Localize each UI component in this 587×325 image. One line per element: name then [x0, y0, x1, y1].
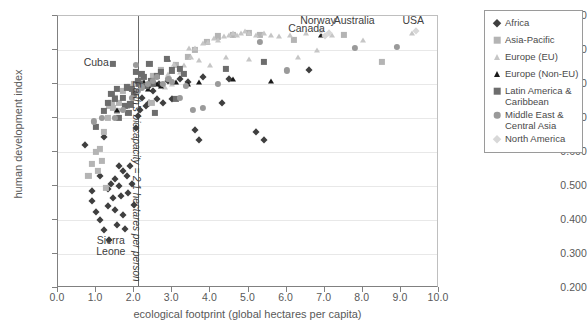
legend-label: Latin America & Caribbean — [505, 85, 583, 107]
legend-item-asia-pacific[interactable]: Asia-Pacific — [491, 34, 583, 45]
data-point — [92, 208, 99, 215]
data-point — [196, 58, 202, 63]
data-point — [295, 54, 301, 59]
y-axis-title: human development index — [12, 54, 24, 214]
data-point — [192, 126, 199, 133]
legend-item-latin-america-caribbean[interactable]: Latin America & Caribbean — [491, 85, 583, 107]
data-point — [89, 161, 95, 167]
x-tick-label: 2.0 — [113, 292, 153, 303]
x-tick-label: 1.0 — [75, 292, 115, 303]
data-point — [119, 211, 126, 218]
data-point — [154, 74, 160, 80]
y-tick-label: 0.400 — [539, 214, 587, 225]
gridline-horizontal — [58, 220, 437, 221]
legend-marker-diamond-icon — [491, 17, 505, 28]
x-tick-label: 6.0 — [266, 292, 306, 303]
data-point — [253, 32, 259, 37]
data-point — [121, 225, 128, 232]
x-tick-mark — [324, 287, 325, 292]
legend-item-north-america[interactable]: North America — [491, 133, 583, 144]
legend-item-middle-east-central-asia[interactable]: Middle East & Central Asia — [491, 109, 583, 131]
legend-label: North America — [505, 133, 565, 144]
data-point — [120, 95, 126, 101]
legend-marker-triangle-icon — [491, 68, 505, 79]
x-tick-mark — [362, 287, 363, 292]
legend-label: Europe (EU) — [505, 51, 558, 62]
x-tick-mark — [133, 287, 134, 292]
data-point — [360, 37, 366, 42]
x-tick-mark — [57, 287, 58, 292]
data-point — [110, 194, 117, 201]
data-point — [97, 146, 103, 152]
data-point — [93, 123, 99, 129]
data-point — [261, 31, 267, 36]
gridline-horizontal — [58, 50, 437, 51]
data-point — [196, 80, 202, 85]
legend-item-africa[interactable]: Africa — [491, 17, 583, 28]
y-tick-label: 0.200 — [539, 282, 587, 293]
data-point — [89, 187, 96, 194]
data-point — [261, 59, 267, 65]
legend-marker-triangle-icon — [491, 51, 505, 62]
x-tick-label: 7.0 — [304, 292, 344, 303]
annotation-sierra-leone-line2: Leone — [96, 245, 125, 257]
data-point — [89, 198, 96, 205]
data-point — [200, 105, 206, 111]
data-point — [101, 108, 107, 114]
y-tick-mark — [52, 185, 57, 186]
legend-label: Africa — [505, 17, 529, 28]
annotation-australia: Australia — [334, 14, 375, 26]
data-point — [207, 63, 213, 68]
x-tick-mark — [286, 287, 287, 292]
y-tick-mark — [52, 117, 57, 118]
annotation-usa: USA — [402, 14, 424, 26]
annotation-canada: Canada — [288, 22, 325, 34]
data-point — [104, 100, 110, 106]
data-point — [104, 203, 111, 210]
x-tick-mark — [248, 287, 249, 292]
y-tick-mark — [52, 151, 57, 152]
data-point — [306, 67, 313, 74]
data-point — [246, 31, 252, 36]
data-point — [314, 48, 320, 53]
x-tick-label: 8.0 — [342, 292, 382, 303]
data-point — [159, 99, 166, 106]
data-point — [181, 71, 187, 77]
chart-legend: AfricaAsia-PacificEurope (EU)Europe (Non… — [484, 10, 583, 153]
x-tick-label: 3.0 — [151, 292, 191, 303]
gridline-horizontal — [58, 152, 437, 153]
y-tick-label: 0.500 — [539, 180, 587, 191]
data-point — [148, 100, 154, 106]
data-point — [104, 115, 110, 121]
x-tick-label: 4.0 — [189, 292, 229, 303]
y-tick-mark — [52, 49, 57, 50]
data-point — [110, 61, 116, 67]
data-point — [252, 128, 259, 135]
y-tick-mark — [52, 253, 57, 254]
data-point — [246, 56, 252, 61]
data-point — [230, 76, 236, 81]
data-point — [284, 67, 290, 73]
data-point — [394, 44, 400, 50]
scatter-chart: human development index 0.2000.3000.4000… — [0, 0, 587, 325]
data-point — [112, 206, 119, 213]
annotation-biocapacity-line: Earth's biocapacity = 2.1 hectares per p… — [131, 81, 141, 282]
data-point — [195, 136, 202, 143]
x-tick-label: 5.0 — [228, 292, 268, 303]
data-point — [177, 95, 183, 101]
data-point — [218, 99, 225, 106]
x-tick-mark — [438, 287, 439, 292]
data-point — [276, 34, 282, 39]
legend-item-europe-non-eu[interactable]: Europe (Non-EU) — [491, 68, 583, 79]
data-point — [96, 216, 103, 223]
data-point — [192, 46, 198, 51]
x-tick-mark — [95, 287, 96, 292]
x-tick-label: 10.0 — [418, 292, 458, 303]
y-tick-label: 0.300 — [539, 248, 587, 259]
y-tick-mark — [52, 83, 57, 84]
data-point — [101, 129, 107, 135]
legend-label: Europe (Non-EU) — [505, 68, 578, 79]
data-point — [341, 32, 347, 38]
data-point — [103, 185, 109, 191]
legend-item-europe-eu[interactable]: Europe (EU) — [491, 51, 583, 62]
